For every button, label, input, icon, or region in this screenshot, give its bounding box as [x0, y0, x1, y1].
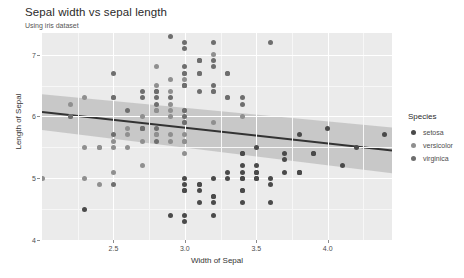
data-point	[254, 176, 259, 181]
data-point	[168, 34, 173, 39]
gridline-minor-y	[42, 86, 392, 87]
data-point	[211, 213, 216, 218]
data-point	[68, 114, 73, 119]
data-point	[168, 213, 173, 218]
data-point	[225, 71, 230, 76]
data-point	[97, 182, 102, 187]
data-point	[197, 58, 202, 63]
data-point	[168, 139, 173, 144]
data-point	[154, 102, 159, 107]
y-tick-mark	[37, 55, 40, 56]
data-point	[197, 182, 202, 187]
x-tick-mark	[113, 240, 114, 243]
data-point	[254, 145, 259, 150]
legend-items: setosaversicolorvirginica	[408, 126, 453, 165]
data-point	[111, 71, 116, 76]
data-point	[125, 108, 130, 113]
data-point	[211, 120, 216, 125]
data-point	[140, 126, 145, 131]
regression-line-path	[42, 112, 392, 150]
legend-item[interactable]: versicolor	[408, 139, 453, 152]
data-point	[111, 182, 116, 187]
legend-item[interactable]: setosa	[408, 126, 453, 139]
data-point	[311, 151, 316, 156]
x-tick-label: 3.0	[180, 245, 190, 252]
legend-item[interactable]: virginica	[408, 152, 453, 165]
data-point	[140, 114, 145, 119]
data-point	[111, 145, 116, 150]
data-point	[82, 207, 87, 212]
gridline-major-x	[256, 33, 257, 240]
x-tick-mark	[256, 240, 257, 243]
x-tick-label: 4.0	[323, 245, 333, 252]
data-point	[140, 95, 145, 100]
data-point	[111, 170, 116, 175]
data-point	[68, 102, 73, 107]
data-point	[240, 95, 245, 100]
y-axis-ticks: 4567	[22, 33, 36, 240]
y-tick-mark	[37, 240, 40, 241]
x-tick-mark	[328, 240, 329, 243]
data-point	[154, 83, 159, 88]
legend-key-icon	[408, 140, 419, 151]
data-point	[268, 182, 273, 187]
legend-dot-icon	[411, 156, 416, 161]
data-point	[240, 151, 245, 156]
gridline-major-y	[42, 55, 392, 56]
data-point	[211, 83, 216, 88]
legend-key-icon	[408, 127, 419, 138]
data-point	[240, 163, 245, 168]
data-point	[42, 176, 45, 181]
data-point	[240, 102, 245, 107]
legend-item-label: versicolor	[423, 142, 453, 149]
legend-item-label: virginica	[423, 155, 449, 162]
chart-root: Sepal width vs sepal length Using iris d…	[0, 0, 464, 278]
data-point	[168, 108, 173, 113]
data-point	[354, 145, 359, 150]
legend: Species setosaversicolorvirginica	[408, 112, 453, 165]
data-point	[340, 163, 345, 168]
data-point	[268, 40, 273, 45]
data-point	[211, 176, 216, 181]
page-title: Sepal width vs sepal length	[25, 6, 167, 18]
y-tick-label: 6	[22, 113, 36, 120]
data-point	[197, 188, 202, 193]
x-tick-label: 2.5	[109, 245, 119, 252]
data-point	[254, 170, 259, 175]
data-point	[240, 188, 245, 193]
y-tick-label: 4	[22, 237, 36, 244]
data-point	[168, 77, 173, 82]
data-point	[140, 163, 145, 168]
data-point	[268, 176, 273, 181]
data-point	[240, 170, 245, 175]
data-point	[297, 170, 302, 175]
data-point	[240, 114, 245, 119]
y-axis-title: Length of Sepal	[14, 62, 23, 182]
gridline-major-y	[42, 178, 392, 179]
data-point	[225, 170, 230, 175]
data-point	[225, 176, 230, 181]
y-tick-label: 5	[22, 175, 36, 182]
data-point	[154, 139, 159, 144]
plot-panel	[42, 33, 392, 240]
data-point	[197, 89, 202, 94]
data-point	[240, 176, 245, 181]
data-point	[168, 114, 173, 119]
data-point	[111, 139, 116, 144]
gridline-major-x	[328, 33, 329, 240]
data-point	[154, 89, 159, 94]
page-subtitle: Using iris dataset	[25, 22, 79, 29]
data-point	[140, 139, 145, 144]
data-point	[140, 89, 145, 94]
y-tick-label: 7	[22, 51, 36, 58]
x-tick-label: 3.5	[251, 245, 261, 252]
legend-key-icon	[408, 153, 419, 164]
x-axis-ticks: 2.53.03.54.0	[42, 240, 392, 256]
legend-dot-icon	[411, 130, 416, 135]
x-tick-mark	[185, 240, 186, 243]
y-tick-mark	[37, 178, 40, 179]
gridline-minor-y	[42, 147, 392, 148]
legend-dot-icon	[411, 143, 416, 148]
gridline-minor-y	[42, 209, 392, 210]
y-tick-mark	[37, 116, 40, 117]
